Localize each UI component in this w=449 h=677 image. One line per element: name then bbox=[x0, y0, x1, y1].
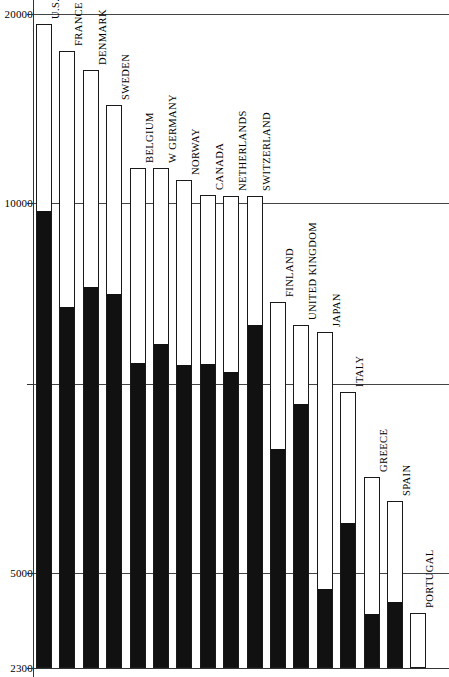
x-axis-baseline bbox=[33, 668, 449, 669]
bar-label-denmark: DENMARK bbox=[97, 9, 108, 65]
bar-label-w-germany: W GERMANY bbox=[167, 94, 178, 163]
bar bbox=[59, 51, 75, 668]
bar bbox=[106, 105, 122, 668]
bar-black-segment bbox=[248, 325, 262, 667]
bar-black-segment bbox=[388, 602, 402, 667]
bar-label-greece: GREECE bbox=[378, 429, 389, 472]
bar bbox=[130, 168, 146, 668]
bar-black-segment bbox=[177, 365, 191, 667]
bar bbox=[36, 24, 52, 668]
bar-black-segment bbox=[201, 364, 215, 667]
bar bbox=[83, 70, 99, 668]
bar-black-segment bbox=[365, 614, 379, 667]
bar bbox=[364, 477, 380, 668]
bar-label-switzerland: SWITZERLAND bbox=[261, 112, 272, 191]
bar-black-segment bbox=[341, 523, 355, 667]
y-axis-line bbox=[33, 0, 34, 677]
bar-label-italy: ITALY bbox=[354, 355, 365, 387]
bar bbox=[410, 613, 426, 668]
bar bbox=[223, 196, 239, 668]
bar-chart: 200001000050002300 U.S.FRANCEDENMARKSWED… bbox=[0, 0, 449, 677]
bar-label-canada: CANADA bbox=[214, 143, 225, 190]
bar bbox=[340, 392, 356, 668]
bar-black-segment bbox=[131, 363, 145, 667]
bar-black-segment bbox=[224, 372, 238, 667]
bar-black-segment bbox=[107, 294, 121, 667]
bar bbox=[247, 196, 263, 668]
bar-label-united-kingdom: UNITED KINGDOM bbox=[307, 222, 318, 320]
bar bbox=[200, 195, 216, 668]
bar bbox=[153, 168, 169, 668]
bar-label-u-s-: U.S. bbox=[50, 0, 61, 19]
bar-label-spain: SPAIN bbox=[401, 465, 412, 496]
bar bbox=[176, 180, 192, 668]
bar-label-belgium: BELGIUM bbox=[144, 112, 155, 163]
bar-label-japan: JAPAN bbox=[331, 293, 342, 327]
bar bbox=[293, 325, 309, 668]
bar-black-segment bbox=[60, 307, 74, 667]
bar-black-segment bbox=[271, 449, 285, 667]
bar-label-portugal: PORTUGAL bbox=[424, 549, 435, 608]
bar-black-segment bbox=[294, 404, 308, 667]
bar-label-sweden: SWEDEN bbox=[120, 54, 131, 100]
bar-black-segment bbox=[84, 287, 98, 667]
bar bbox=[317, 332, 333, 668]
gridline-20000 bbox=[33, 14, 449, 15]
bar-label-france: FRANCE bbox=[73, 2, 84, 46]
bar-label-netherlands: NETHERLANDS bbox=[237, 110, 248, 191]
plot-area: U.S.FRANCEDENMARKSWEDENBELGIUMW GERMANYN… bbox=[0, 0, 449, 677]
bar-black-segment bbox=[318, 589, 332, 667]
bar-black-segment bbox=[154, 344, 168, 667]
bar-black-segment bbox=[37, 211, 51, 667]
bar-label-finland: FINLAND bbox=[284, 248, 295, 297]
bar-label-norway: NORWAY bbox=[190, 128, 201, 175]
bar bbox=[270, 302, 286, 668]
bar bbox=[387, 501, 403, 668]
